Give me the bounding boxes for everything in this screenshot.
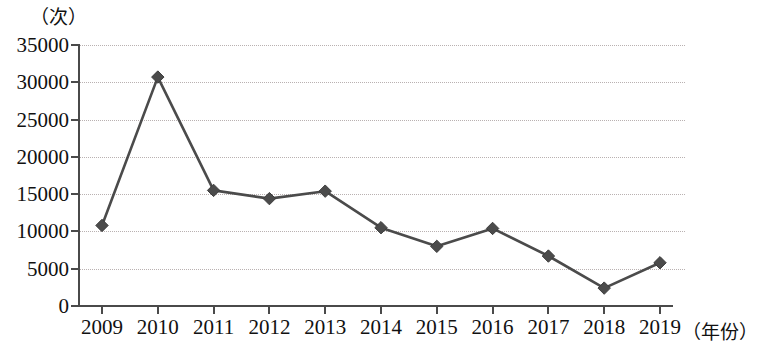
data-point-marker [431,240,443,252]
x-axis-tick-label: 2015 [416,317,458,338]
x-axis-tick [492,306,494,314]
x-axis-tick-label: 2017 [527,317,569,338]
x-axis-unit-label: （年份） [682,317,758,342]
data-point-marker [486,222,498,234]
data-point-marker [542,250,554,262]
x-axis-tick-label: 2016 [472,317,514,338]
y-axis-tick-label: 25000 [17,109,70,130]
x-axis-tick-label: 2011 [193,317,234,338]
x-axis-tick [101,306,103,314]
x-axis-tick-label: 2010 [137,317,179,338]
line-chart-figure: （次） 05000100001500020000250003000035000 … [0,0,770,342]
x-axis-tick [268,306,270,314]
x-axis-tick [547,306,549,314]
y-axis-unit-label: （次） [30,2,87,29]
y-axis-tick-label: 10000 [17,221,70,242]
x-axis-tick-label: 2009 [81,317,123,338]
x-axis-tick [324,306,326,314]
data-series-group [78,45,685,306]
x-axis-tick [603,306,605,314]
x-axis-tick [659,306,661,314]
y-axis-tick-label: 35000 [17,35,70,56]
plot-area: 05000100001500020000250003000035000 2009… [78,45,685,306]
x-axis-tick-label: 2013 [304,317,346,338]
data-point-marker [96,219,108,231]
y-axis-tick-label: 15000 [17,184,70,205]
data-point-marker [598,282,610,294]
x-axis-tick [213,306,215,314]
y-axis-tick-label: 30000 [17,72,70,93]
x-axis-tick-label: 2012 [248,317,290,338]
x-axis-tick [436,306,438,314]
x-axis-tick-label: 2019 [639,317,681,338]
series-line [102,77,660,288]
x-axis-tick [380,306,382,314]
x-axis-tick [157,306,159,314]
data-point-marker [152,71,164,83]
data-point-marker [263,192,275,204]
data-point-marker [207,184,219,196]
y-axis-tick-label: 5000 [27,258,69,279]
x-axis-tick-label: 2014 [360,317,402,338]
x-axis-tick-label: 2018 [583,317,625,338]
y-axis-tick-label: 20000 [17,146,70,167]
data-point-marker [654,257,666,269]
y-axis-tick-label: 0 [59,296,70,317]
